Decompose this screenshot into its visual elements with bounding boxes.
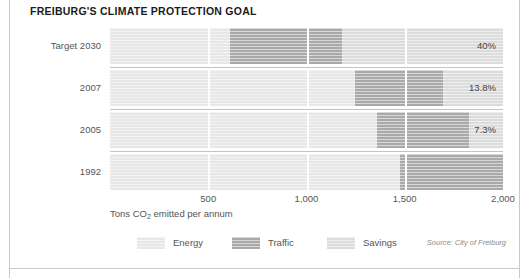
legend-swatch-traffic [232, 237, 260, 249]
x-tick-label: 2,000 [491, 193, 515, 204]
chart-row: 20057.3% [0, 112, 528, 148]
chart-row: 200713.8% [0, 70, 528, 106]
gridline-break [405, 112, 407, 148]
x-tick-label: 1,500 [393, 193, 417, 204]
legend-swatch-savings [327, 237, 355, 249]
row-label-target-2030: Target 2030 [51, 28, 101, 64]
x-axis-title-main: Tons CO [110, 208, 147, 219]
gridline-break [307, 28, 309, 64]
x-tick-label: 1,000 [295, 193, 319, 204]
gridline-break [208, 70, 210, 106]
row-separator [110, 67, 503, 68]
bar-segment-energy[interactable] [110, 70, 355, 106]
x-axis-title-rest: emitted per annum [151, 208, 233, 219]
bar-segment-energy[interactable] [110, 154, 400, 190]
bar-segment-energy[interactable] [110, 112, 377, 148]
row-label-2007: 2007 [80, 70, 101, 106]
chart-figure: FREIBURG'S CLIMATE PROTECTION GOAL Targe… [0, 0, 528, 278]
row-label-2005: 2005 [80, 112, 101, 148]
bar-segment-traffic[interactable] [400, 154, 503, 190]
bar-segment-traffic[interactable] [355, 70, 443, 106]
gridline-break [208, 28, 210, 64]
bar-value-label: 40% [477, 28, 496, 64]
row-label-1992: 1992 [80, 154, 101, 190]
row-separator [110, 109, 503, 110]
legend-label-energy: Energy [173, 236, 203, 250]
gridline-break [405, 28, 407, 64]
chart-row: Target 203040% [0, 28, 528, 64]
legend-label-traffic: Traffic [268, 236, 294, 250]
bar-segment-traffic[interactable] [230, 28, 342, 64]
legend-swatch-energy [137, 237, 165, 249]
gridline-break [405, 70, 407, 106]
bar-value-label: 7.3% [474, 112, 496, 148]
row-separator [110, 151, 503, 152]
legend-label-savings: Savings [363, 236, 397, 250]
gridline-break [208, 154, 210, 190]
bar-segment-energy[interactable] [110, 28, 230, 64]
gridline-break [307, 112, 309, 148]
gridline-break [307, 154, 309, 190]
x-tick-label: 500 [200, 193, 216, 204]
gridline-break [307, 70, 309, 106]
gridline-break [208, 112, 210, 148]
gridline-break [405, 154, 407, 190]
x-axis-title: Tons CO2 emitted per annum [110, 208, 233, 220]
bar-value-label: 13.8% [469, 70, 496, 106]
chart-row: 1992 [0, 154, 528, 190]
bar-segment-traffic[interactable] [377, 112, 468, 148]
source-note: Source: City of Freiburg [427, 238, 506, 247]
